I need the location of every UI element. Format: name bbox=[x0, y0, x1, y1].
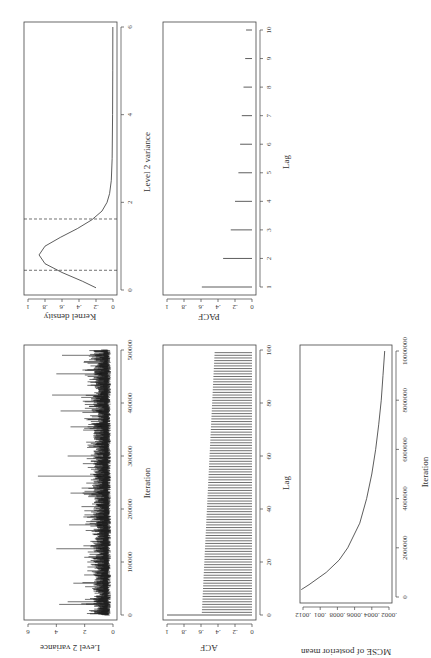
mcse-y-tick-label: .001 bbox=[314, 611, 327, 619]
density-x-tick-label: 0 bbox=[126, 288, 134, 292]
trace-x-tick-label: 400000 bbox=[126, 392, 134, 414]
trace-x-tick-label: 500000 bbox=[126, 339, 134, 361]
trace-x-tick-label: 100000 bbox=[126, 551, 134, 573]
mcse-x-label: Iteration bbox=[420, 456, 430, 487]
pacf-y-tick-label: .4 bbox=[215, 303, 221, 311]
mcse-frame bbox=[300, 345, 392, 603]
trace-y-tick-label: 6 bbox=[26, 628, 30, 636]
density-y-tick-label: 0 bbox=[111, 303, 115, 311]
pacf-x-tick-label: 2 bbox=[265, 256, 273, 260]
trace-line bbox=[38, 350, 111, 615]
pacf-y-tick-label: 0 bbox=[250, 303, 254, 311]
acf-y-tick-label: .4 bbox=[215, 628, 221, 636]
density-y-tick-label: .2 bbox=[93, 303, 99, 311]
pacf-y-tick-label: .2 bbox=[232, 303, 238, 311]
acf-y-label: ACF bbox=[200, 643, 218, 653]
pacf-x-tick-label: 4 bbox=[265, 199, 273, 203]
pacf-x-tick-label: 9 bbox=[265, 56, 273, 60]
mcse-y-tick-label: .0002 bbox=[381, 611, 397, 619]
acf-x-tick-label: 40 bbox=[265, 505, 273, 513]
mcse-x-tick-label: 4000000 bbox=[401, 486, 409, 511]
density-y-tick-label: .4 bbox=[76, 303, 82, 311]
mcse-curve bbox=[301, 351, 384, 590]
acf-x-tick-label: 0 bbox=[265, 613, 273, 617]
pacf-x-tick-label: 8 bbox=[265, 85, 273, 89]
pacf-y-tick-label: .6 bbox=[198, 303, 204, 311]
kernel-density-plot: 02460.2.4.6.81 bbox=[24, 22, 134, 311]
trace-y-label: Level 2 variance bbox=[40, 643, 100, 653]
mcse-x-tick-label: 6000000 bbox=[401, 437, 409, 462]
pacf-x-tick-label: 7 bbox=[265, 113, 273, 117]
pacf-frame bbox=[163, 22, 256, 295]
trace-y-tick-label: 4 bbox=[54, 628, 58, 636]
trace-x-tick-label: 200000 bbox=[126, 498, 134, 520]
density-x-label: Level 2 variance bbox=[142, 132, 152, 192]
pacf-x-tick-label: 3 bbox=[265, 228, 273, 232]
acf-x-tick-label: 100 bbox=[265, 344, 273, 355]
trace-y-tick-label: 0 bbox=[111, 628, 115, 636]
acf-y-tick-label: 1 bbox=[165, 628, 169, 636]
pacf-x-tick-label: 1 bbox=[265, 285, 273, 289]
mcse-plot: 0200000040000006000000800000010000000.00… bbox=[295, 337, 409, 620]
mcse-y-label: MCSE of posterior mean bbox=[300, 647, 391, 657]
density-x-tick-label: 2 bbox=[126, 200, 134, 204]
pacf-x-tick-label: 5 bbox=[265, 171, 273, 175]
density-x-tick-label: 6 bbox=[126, 25, 134, 29]
acf-y-tick-label: .2 bbox=[232, 628, 238, 636]
pacf-plot: 123456789100.2.4.6.81 bbox=[163, 22, 273, 311]
acf-plot: 0204060801000.2.4.6.81 bbox=[163, 344, 273, 636]
acf-y-tick-label: .6 bbox=[198, 628, 204, 636]
acf-y-tick-label: .8 bbox=[181, 628, 187, 636]
mcse-x-tick-label: 10000000 bbox=[401, 337, 409, 366]
pacf-x-label: Lag bbox=[281, 155, 291, 169]
density-y-label: Kernel density bbox=[43, 312, 96, 322]
mcse-x-tick-label: 2000000 bbox=[401, 535, 409, 560]
trace-plot: 01000002000003000004000005000000246 bbox=[24, 339, 134, 636]
mcse-y-tick-label: .0006 bbox=[346, 611, 362, 619]
trace-x-tick-label: 0 bbox=[126, 613, 134, 617]
pacf-x-tick-label: 6 bbox=[265, 142, 273, 146]
mcse-x-tick-label: 0 bbox=[401, 595, 409, 599]
density-frame bbox=[24, 22, 117, 295]
density-y-tick-label: .8 bbox=[42, 303, 48, 311]
acf-x-tick-label: 60 bbox=[265, 452, 273, 460]
mcse-y-tick-label: .0004 bbox=[363, 611, 379, 619]
pacf-y-tick-label: .8 bbox=[181, 303, 187, 311]
mcse-y-tick-label: .0008 bbox=[329, 611, 345, 619]
density-y-tick-label: 1 bbox=[26, 303, 30, 311]
pacf-y-label: PACF bbox=[198, 312, 220, 322]
mcse-x-tick-label: 8000000 bbox=[401, 387, 409, 412]
density-x-tick-label: 4 bbox=[126, 112, 134, 116]
acf-x-tick-label: 80 bbox=[265, 399, 273, 407]
rotated-figure: 01000002000003000004000005000000246 0246… bbox=[0, 0, 431, 658]
trace-y-tick-label: 2 bbox=[82, 628, 86, 636]
density-curve bbox=[39, 27, 113, 288]
density-y-tick-label: .6 bbox=[59, 303, 65, 311]
mcse-y-tick-label: .0012 bbox=[295, 611, 311, 619]
figure-canvas: 01000002000003000004000005000000246 0246… bbox=[0, 0, 431, 658]
trace-x-tick-label: 300000 bbox=[126, 445, 134, 467]
acf-y-tick-label: 0 bbox=[250, 628, 254, 636]
pacf-y-tick-label: 1 bbox=[165, 303, 169, 311]
acf-x-tick-label: 20 bbox=[265, 558, 273, 566]
trace-x-label: Iteration bbox=[142, 467, 152, 498]
acf-x-label: Lag bbox=[281, 476, 291, 490]
pacf-x-tick-label: 10 bbox=[265, 26, 273, 34]
